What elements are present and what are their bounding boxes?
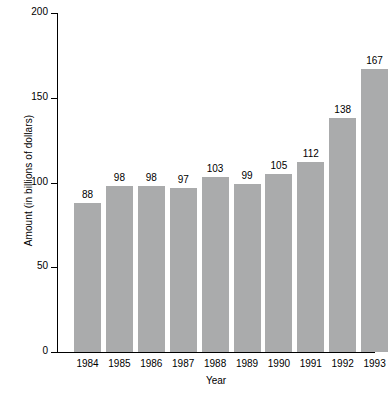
bar-group: 881984 — [74, 13, 101, 352]
y-tick-label: 0 — [42, 345, 48, 356]
bar-1989 — [234, 184, 261, 352]
y-tick-0: 0 — [51, 352, 57, 353]
bar-group: 1381992 — [329, 13, 356, 352]
x-axis-line — [57, 352, 375, 353]
bar-1988 — [202, 177, 229, 352]
bar-group: 991989 — [234, 13, 261, 352]
bar-group: 981985 — [106, 13, 133, 352]
y-tick-label: 200 — [31, 6, 48, 17]
bar-1992 — [329, 118, 356, 352]
bar-group: 981986 — [138, 13, 165, 352]
y-tick-label: 150 — [31, 91, 48, 102]
bar-group: 1031988 — [202, 13, 229, 352]
bar-1986 — [138, 186, 165, 352]
bar-value-label: 112 — [292, 148, 329, 159]
bar-value-label: 138 — [324, 104, 361, 115]
plot-area: 050100150200 881984981985981986971987103… — [57, 13, 375, 352]
y-tick-label: 100 — [31, 176, 48, 187]
bar-1991 — [297, 162, 324, 352]
bar-value-label: 97 — [165, 174, 202, 185]
bar-group: 1121991 — [297, 13, 324, 352]
bar-group: 971987 — [170, 13, 197, 352]
x-tick-label-1993: 1993 — [354, 358, 392, 369]
bar-1993 — [361, 69, 388, 352]
bar-value-label: 99 — [229, 170, 266, 181]
bar-value-label: 105 — [260, 160, 297, 171]
bar-value-label: 167 — [356, 55, 392, 66]
bar-value-label: 88 — [69, 189, 106, 200]
x-axis-title: Year — [57, 375, 375, 386]
bar-group: 1671993 — [361, 13, 388, 352]
y-tick-label: 50 — [37, 260, 48, 271]
bar-1984 — [74, 203, 101, 352]
bar-1990 — [265, 174, 292, 352]
bar-1987 — [170, 188, 197, 352]
bar-group: 1051990 — [265, 13, 292, 352]
bar-series: 8819849819859819869719871031988991989105… — [57, 13, 375, 352]
bar-1985 — [106, 186, 133, 352]
